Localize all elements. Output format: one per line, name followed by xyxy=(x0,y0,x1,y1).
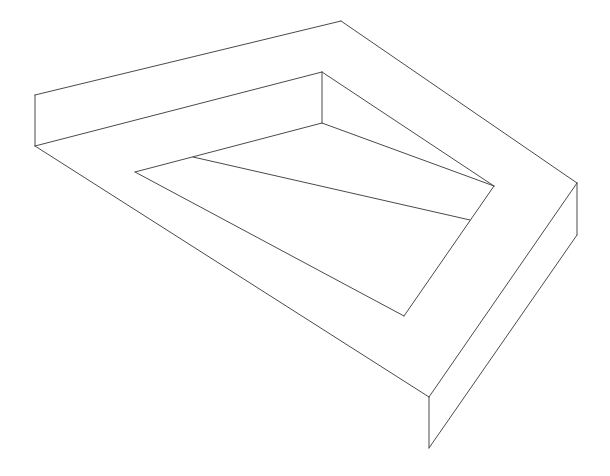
diagram-canvas xyxy=(0,0,610,476)
right-front-top-edge xyxy=(429,183,577,397)
inner-hole-right-edge xyxy=(404,186,494,316)
inner-top-right-edge xyxy=(322,72,494,186)
inner-divider-line xyxy=(193,157,470,220)
inner-hole-left-edge xyxy=(135,172,404,316)
impossible-frame-figure xyxy=(0,0,610,476)
right-front-bottom-edge xyxy=(429,235,577,448)
left-lower-top-edge xyxy=(35,72,322,146)
outer-top-right-edge xyxy=(341,21,577,183)
outer-left-long-edge xyxy=(35,146,429,397)
outer-top-left-edge xyxy=(35,21,341,95)
inner-upper-right-edge xyxy=(322,123,494,186)
